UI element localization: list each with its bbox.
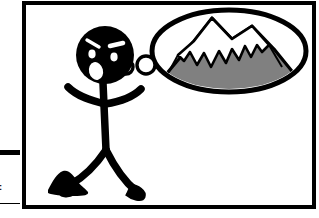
stick-figure-head <box>76 26 134 84</box>
stick-figure-right-eyebrow <box>110 43 123 46</box>
stick-figure-left-eye <box>88 50 95 59</box>
thought-trail-bubble-large <box>137 56 155 74</box>
caption-line-2: his- <box>0 216 20 218</box>
figure-caption-text: 2-1: his- ing. <box>0 158 20 217</box>
figure-caption-block: 2-1: his- ing. <box>0 150 20 217</box>
caption-divider <box>0 203 20 204</box>
caption-rule <box>0 150 20 155</box>
figure-frame <box>22 1 316 209</box>
figure-illustration <box>26 5 312 205</box>
stick-figure-right-arm <box>105 89 141 104</box>
figure-page: 2-1: his- ing. <box>0 0 319 217</box>
stick-figure-right-eye <box>110 53 117 62</box>
thought-bubble-group <box>152 10 308 92</box>
stick-figure <box>60 26 145 200</box>
cartoon-illustration-svg <box>26 5 312 205</box>
stick-figure-torso <box>103 83 106 150</box>
stick-figure-left-arm <box>68 87 105 104</box>
caption-line-1: 2-1: <box>0 181 20 193</box>
